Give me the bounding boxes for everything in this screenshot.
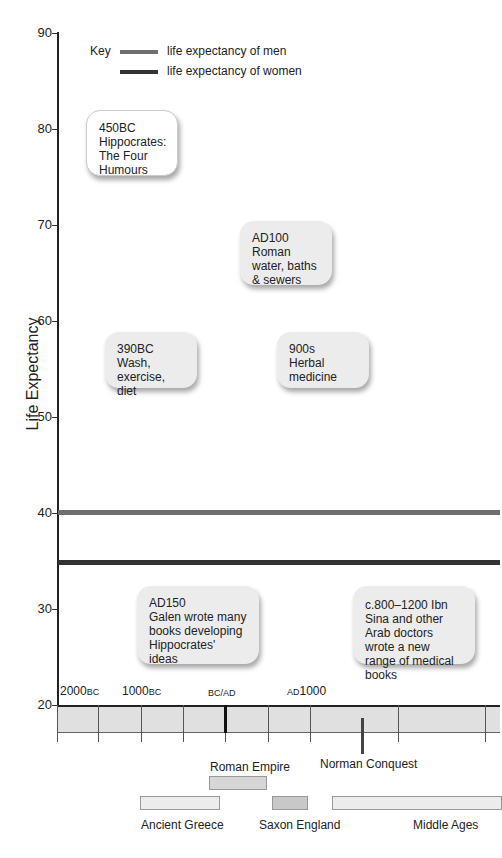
norman-conquest-marker bbox=[361, 718, 364, 754]
note-text: Galen wrote many books developing Hippoc… bbox=[149, 610, 246, 666]
x-label-1000bc: 1000BC bbox=[122, 684, 161, 698]
note-year: 900s bbox=[289, 342, 357, 356]
timeline-tick bbox=[268, 705, 269, 742]
timeline-tick bbox=[225, 733, 226, 742]
note-text: c.800–1200 Ibn Sina and other Arab docto… bbox=[365, 598, 454, 682]
key-label: Key bbox=[90, 44, 111, 58]
note-hippocrates: 450BC Hippocrates: The Four Humours bbox=[86, 110, 178, 176]
y-tick-70 bbox=[52, 225, 58, 226]
series-line-women bbox=[58, 560, 500, 565]
note-year: 390BC bbox=[117, 342, 185, 356]
y-axis bbox=[57, 32, 59, 706]
note-year: 450BC bbox=[99, 121, 165, 135]
note-text: Roman water, baths & sewers bbox=[252, 245, 317, 287]
x-label-2000bc: 2000BC bbox=[60, 684, 99, 698]
y-tick-label-40: 40 bbox=[22, 505, 52, 520]
y-tick-label-90: 90 bbox=[22, 25, 52, 40]
timeline-tick bbox=[310, 705, 311, 742]
period-bar-roman-empire bbox=[209, 776, 267, 790]
period-label-roman-empire: Roman Empire bbox=[210, 760, 290, 774]
period-bar-saxon-england bbox=[272, 796, 308, 810]
period-label-saxon-england: Saxon England bbox=[259, 818, 340, 832]
y-tick-90 bbox=[52, 33, 58, 34]
legend-label-women: life expectancy of women bbox=[167, 64, 302, 78]
timeline-tick bbox=[398, 705, 399, 742]
period-label-norman-conquest: Norman Conquest bbox=[320, 757, 417, 771]
series-line-men bbox=[58, 510, 500, 515]
note-text: Hippocrates: The Four Humours bbox=[99, 135, 166, 177]
timeline-tick-bc-ad bbox=[224, 705, 227, 733]
period-bar-middle-ages bbox=[332, 796, 502, 810]
timeline-bar bbox=[58, 705, 500, 733]
x-label-bc-ad: BC/AD bbox=[208, 688, 236, 698]
timeline-tick bbox=[485, 705, 486, 742]
legend-swatch-women bbox=[120, 70, 158, 74]
period-label-middle-ages: Middle Ages bbox=[413, 818, 478, 832]
y-tick-60 bbox=[52, 321, 58, 322]
legend-swatch-men bbox=[120, 50, 158, 54]
timeline-tick bbox=[98, 705, 99, 742]
y-tick-label-50: 50 bbox=[22, 409, 52, 424]
legend-label-men: life expectancy of men bbox=[167, 44, 286, 58]
note-ibn-sina: c.800–1200 Ibn Sina and other Arab docto… bbox=[353, 586, 475, 664]
y-tick-label-60: 60 bbox=[22, 313, 52, 328]
note-roman-water: AD100 Roman water, baths & sewers bbox=[240, 221, 332, 285]
note-wash-exercise: 390BC Wash, exercise, diet bbox=[105, 332, 197, 388]
y-tick-label-70: 70 bbox=[22, 217, 52, 232]
note-text: Wash, exercise, diet bbox=[117, 356, 165, 398]
period-bar-ancient-greece bbox=[140, 796, 220, 810]
timeline-tick bbox=[141, 705, 142, 742]
note-galen: AD150 Galen wrote many books developing … bbox=[137, 586, 259, 664]
x-label-ad1000: AD1000 bbox=[287, 684, 326, 698]
note-year: AD100 bbox=[252, 231, 320, 245]
y-tick-label-20: 20 bbox=[22, 697, 52, 712]
y-tick-label-30: 30 bbox=[22, 601, 52, 616]
timeline-tick bbox=[57, 705, 58, 742]
y-tick-80 bbox=[52, 129, 58, 130]
note-year: AD150 bbox=[149, 596, 247, 610]
note-herbal-medicine: 900s Herbal medicine bbox=[277, 332, 369, 388]
y-tick-label-80: 80 bbox=[22, 121, 52, 136]
period-label-ancient-greece: Ancient Greece bbox=[141, 818, 224, 832]
note-text: Herbal medicine bbox=[289, 356, 337, 384]
timeline-tick bbox=[183, 705, 184, 742]
y-tick-30 bbox=[52, 609, 58, 610]
y-tick-50 bbox=[52, 417, 58, 418]
